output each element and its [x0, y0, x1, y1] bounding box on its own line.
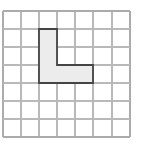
figure-root: [0, 0, 144, 144]
grid-canvas: [0, 0, 144, 144]
